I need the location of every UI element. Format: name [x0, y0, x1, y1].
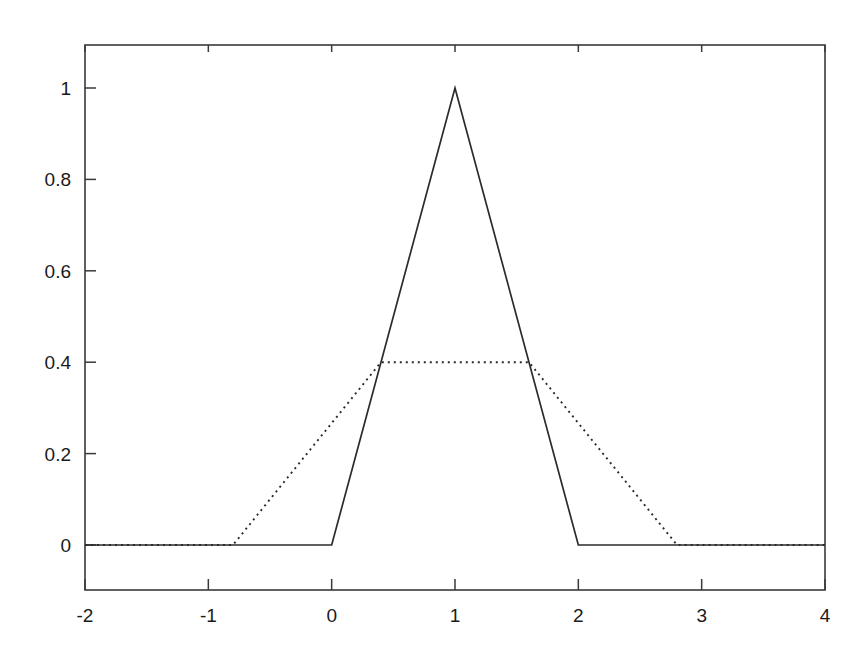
- x-tick-label: 4: [820, 605, 831, 626]
- y-tick-label: 1: [60, 78, 71, 99]
- x-tick-label: -1: [200, 605, 217, 626]
- y-tick-label: 0.2: [45, 444, 71, 465]
- plot-canvas: 00.20.40.60.81 -2-101234: [0, 0, 865, 652]
- figure-background: [0, 0, 865, 652]
- x-tick-label: 1: [450, 605, 461, 626]
- y-tick-label: 0.6: [45, 261, 71, 282]
- y-tick-label: 0.8: [45, 169, 71, 190]
- x-tick-label: 2: [573, 605, 584, 626]
- x-tick-label: 0: [326, 605, 337, 626]
- y-tick-label: 0.4: [45, 352, 72, 373]
- chart-figure: 00.20.40.60.81 -2-101234: [0, 0, 865, 652]
- x-tick-label: -2: [77, 605, 94, 626]
- x-tick-label: 3: [696, 605, 707, 626]
- y-tick-label: 0: [60, 535, 71, 556]
